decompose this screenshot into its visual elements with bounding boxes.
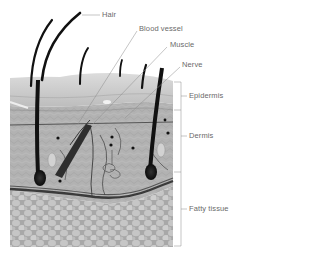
label-muscle: Muscle	[170, 41, 194, 49]
label-dermis: Dermis	[189, 132, 213, 140]
label-fatty-tissue: Fatty tissue	[189, 205, 229, 213]
label-nerve: Nerve	[182, 61, 203, 69]
layer-bracket	[174, 82, 187, 246]
label-hair: Hair	[102, 11, 116, 19]
label-epidermis: Epidermis	[189, 92, 223, 100]
label-blood-vessel: Blood vessel	[139, 25, 183, 33]
